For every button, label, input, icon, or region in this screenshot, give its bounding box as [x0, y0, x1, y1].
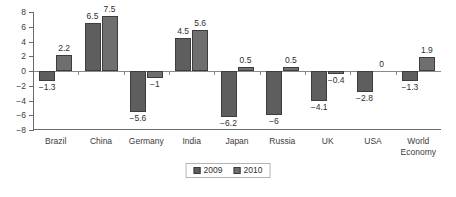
- y-tick-label: −8: [16, 126, 26, 135]
- bar-value-label: 6.5: [87, 12, 99, 21]
- y-tick-mark: [29, 101, 34, 102]
- bar-value-label: −1.3: [39, 83, 56, 92]
- bar-value-label: −1.3: [401, 83, 418, 92]
- legend-swatch-icon: [194, 167, 201, 174]
- category-label-china: China: [90, 136, 112, 147]
- bar-group: −2.80: [357, 12, 390, 130]
- bar-group: −5.6−1: [130, 12, 163, 130]
- x-tick-mark: [124, 71, 125, 75]
- bar-2010-world-economy: [419, 57, 435, 71]
- bar-value-label: 5.6: [194, 19, 206, 28]
- bar-group: −6.20.5: [221, 12, 254, 130]
- bar-group: −1.32.2: [39, 12, 72, 130]
- bar-2009-russia: [266, 71, 282, 115]
- bar-value-label: −5.6: [129, 114, 146, 123]
- bar-2009-japan: [221, 71, 237, 117]
- bar-2010-japan: [238, 67, 254, 71]
- y-tick-mark: [29, 86, 34, 87]
- bar-value-label: 4.5: [177, 27, 189, 36]
- bar-2009-uk: [311, 71, 327, 101]
- bar-value-label: −0.4: [328, 76, 345, 85]
- bar-value-label: 0: [379, 60, 384, 69]
- y-tick-mark: [29, 27, 34, 28]
- legend-label: 2010: [244, 166, 263, 175]
- category-label-uk: UK: [322, 136, 334, 147]
- bar-value-label: 0.5: [240, 56, 252, 65]
- bar-value-label: −1: [150, 80, 160, 89]
- category-label-india: India: [182, 136, 200, 147]
- bar-2009-brazil: [39, 71, 55, 81]
- bar-group: −60.5: [266, 12, 299, 130]
- bar-value-label: 7.5: [104, 5, 116, 14]
- legend-label: 2009: [204, 166, 223, 175]
- bar-value-label: 2.2: [58, 44, 70, 53]
- legend-item-2010[interactable]: 2010: [234, 166, 263, 175]
- x-tick-mark: [169, 71, 170, 75]
- bar-group: 6.57.5: [85, 12, 118, 130]
- legend-item-2009[interactable]: 2009: [194, 166, 223, 175]
- bar-value-label: −6: [269, 117, 279, 126]
- x-tick-mark: [78, 71, 79, 75]
- bar-value-label: 0.5: [285, 56, 297, 65]
- y-tick-mark: [29, 130, 34, 131]
- bar-group: −4.1−0.4: [311, 12, 344, 130]
- y-tick-label: 0: [21, 67, 26, 76]
- y-tick-mark: [29, 71, 34, 72]
- chart-legend: 20092010: [186, 163, 271, 178]
- y-tick-label: 8: [21, 8, 26, 17]
- y-tick-mark: [29, 115, 34, 116]
- bar-2010-brazil: [56, 55, 72, 71]
- y-tick-mark: [29, 12, 34, 13]
- category-label-germany: Germany: [129, 136, 164, 147]
- y-tick-mark: [29, 56, 34, 57]
- x-tick-mark: [260, 71, 261, 75]
- plot-area: 86420−2−4−6−8 −1.32.26.57.5−5.6−14.55.6−…: [33, 12, 441, 130]
- bar-2009-germany: [130, 71, 146, 112]
- y-tick-label: 2: [21, 52, 26, 61]
- bar-2009-china: [85, 23, 101, 71]
- bar-2009-world-economy: [402, 71, 418, 81]
- bar-value-label: 1.9: [421, 46, 433, 55]
- bar-chart: 86420−2−4−6−8 −1.32.26.57.5−5.6−14.55.6−…: [0, 0, 456, 197]
- y-tick-label: −4: [16, 96, 26, 105]
- bar-2010-germany: [147, 71, 163, 78]
- y-tick-label: 6: [21, 23, 26, 32]
- bar-2009-usa: [357, 71, 373, 92]
- bar-2010-russia: [283, 67, 299, 71]
- y-tick-label: −2: [16, 82, 26, 91]
- bar-2009-india: [175, 38, 191, 71]
- bar-2010-uk: [328, 71, 344, 74]
- y-tick-label: −6: [16, 111, 26, 120]
- y-tick-label: 4: [21, 37, 26, 46]
- category-label-russia: Russia: [269, 136, 295, 147]
- bar-group: 4.55.6: [175, 12, 208, 130]
- x-tick-mark: [214, 71, 215, 75]
- bar-group: −1.31.9: [402, 12, 435, 130]
- category-label-world-economy: World Economy: [401, 136, 436, 158]
- legend-swatch-icon: [234, 167, 241, 174]
- bar-2010-india: [192, 30, 208, 71]
- bar-value-label: −2.8: [356, 94, 373, 103]
- x-tick-mark: [305, 71, 306, 75]
- category-label-usa: USA: [364, 136, 381, 147]
- x-tick-mark: [396, 71, 397, 75]
- x-tick-mark: [350, 71, 351, 75]
- category-label-japan: Japan: [225, 136, 248, 147]
- bar-2010-china: [102, 16, 118, 71]
- y-tick-mark: [29, 42, 34, 43]
- bar-value-label: −4.1: [311, 103, 328, 112]
- category-label-brazil: Brazil: [45, 136, 66, 147]
- bar-value-label: −6.2: [220, 119, 237, 128]
